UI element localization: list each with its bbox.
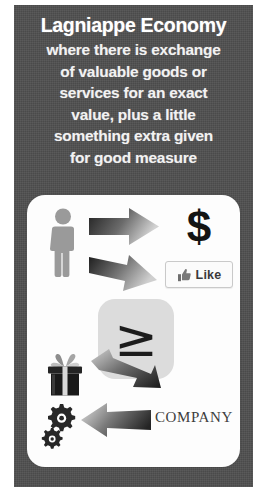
headline-block: Lagniappe Economy where there is exchang… <box>14 5 253 172</box>
diagram-panel: $ Like <box>27 195 240 467</box>
infographic-card: Lagniappe Economy where there is exchang… <box>14 5 253 487</box>
arrow-right-icon <box>87 251 161 293</box>
page-title: Lagniappe Economy <box>22 14 245 36</box>
gift-box-icon <box>43 353 87 399</box>
person-icon <box>41 207 85 279</box>
like-button-label: Like <box>196 268 222 282</box>
arrow-left-icon <box>79 397 155 441</box>
subtitle-text: where there is exchange of valuable good… <box>22 39 245 168</box>
dollar-sign-icon: $ <box>175 203 223 251</box>
arrow-right-icon <box>87 207 161 249</box>
arrow-left-icon <box>89 347 165 391</box>
thumbs-up-icon <box>177 268 192 282</box>
company-label: COMPANY <box>155 409 237 426</box>
like-button[interactable]: Like <box>165 261 233 288</box>
